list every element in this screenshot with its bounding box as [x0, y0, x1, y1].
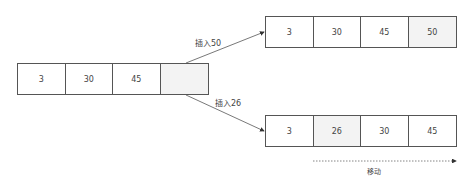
array-cell: 30 — [361, 116, 409, 146]
array-cell: 30 — [314, 17, 362, 47]
result-array-insert50: 3 30 45 50 — [265, 16, 457, 48]
shift-label: 移动 — [367, 166, 381, 176]
array-cell: 30 — [66, 64, 114, 94]
array-cell: 3 — [266, 17, 314, 47]
result-array-insert26: 3 26 30 45 — [265, 115, 457, 147]
array-cell: 45 — [113, 64, 161, 94]
inserted-cell: 50 — [409, 17, 456, 47]
insert26-label: 插入26 — [215, 97, 241, 108]
array-cell: 3 — [18, 64, 66, 94]
source-array: 3 30 45 — [17, 63, 209, 95]
array-cell: 45 — [409, 116, 456, 146]
empty-array-cell — [161, 64, 208, 94]
array-cell: 3 — [266, 116, 314, 146]
array-cell: 45 — [361, 17, 409, 47]
insert50-label: 插入50 — [195, 37, 221, 48]
inserted-cell: 26 — [314, 116, 362, 146]
